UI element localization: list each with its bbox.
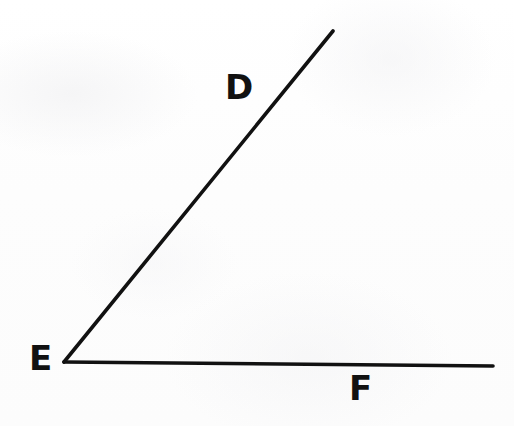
angle-diagram-figure: D E F — [0, 0, 514, 426]
ray-ED-line — [64, 31, 333, 362]
angle-drawing-canvas — [0, 0, 514, 426]
point-label-F: F — [349, 371, 372, 405]
ray-EF-line — [64, 362, 493, 366]
point-label-E: E — [29, 341, 52, 375]
point-label-D: D — [225, 70, 253, 104]
